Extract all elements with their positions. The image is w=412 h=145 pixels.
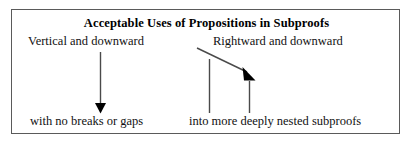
diagram-graphics-layer [12, 10, 400, 134]
vertical-down-arrow-icon [95, 52, 106, 114]
vertical-arrow-head [95, 103, 106, 114]
figure-container: Acceptable Uses of Propositions in Subpr… [11, 9, 400, 134]
diagonal-arrow-shaft [197, 48, 247, 72]
diagonal-arrow-head [243, 67, 256, 81]
diagonal-down-right-arrow-icon [197, 48, 256, 81]
